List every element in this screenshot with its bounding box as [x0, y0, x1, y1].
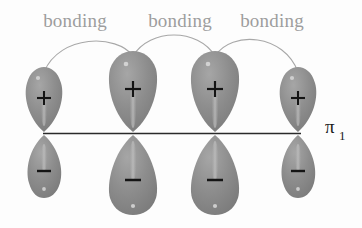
orbital-2-lower-sheen: [130, 141, 137, 181]
bonding-label-1: bonding: [43, 10, 107, 31]
bonding-label-2: bonding: [148, 10, 212, 31]
orbital-2-lower-highlight-dot: [131, 204, 135, 208]
orbital-4-lower-highlight-dot: [296, 187, 300, 191]
orbital-2-upper-highlight-dot: [124, 62, 129, 67]
orbital-symbol-subscript: 1: [339, 128, 346, 143]
orbital-3-lower-sheen: [212, 141, 219, 181]
orbital-3-upper-highlight-dot: [206, 62, 211, 67]
orbital-1-upper-highlight-dot: [36, 76, 40, 80]
orbital-3-lower-highlight-dot: [213, 204, 217, 208]
bonding-label-3: bonding: [240, 10, 304, 31]
orbital-4-upper-highlight-dot: [290, 76, 294, 80]
orbital-1-lower-highlight-dot: [42, 187, 46, 191]
molecular-orbital-figure: bonding bonding bonding π 1: [0, 0, 362, 228]
mo-diagram-canvas: bonding bonding bonding π 1: [0, 0, 362, 228]
orbital-symbol-pi: π: [325, 116, 335, 137]
orbital-4-lower-sheen: [295, 144, 301, 172]
orbital-1-lower-sheen: [41, 144, 47, 172]
